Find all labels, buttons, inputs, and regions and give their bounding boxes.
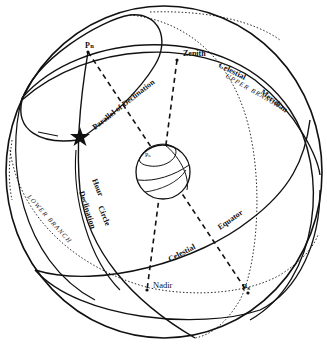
lower-branch-label: LOWER BRANCH: [26, 192, 74, 244]
north-pole-point: [86, 50, 89, 53]
upper-branch-label: UPPER BRANCH: [225, 72, 282, 109]
nadir-point: [145, 288, 148, 291]
earth-pole-label: Pₙ: [145, 152, 151, 158]
zenith-point: [175, 58, 178, 61]
hour-circle-label-2: Circle: [96, 204, 112, 227]
celestial-equator-label-2: Equator: [216, 208, 245, 232]
parallel-of-declination: [21, 15, 162, 141]
dotted-left: [9, 140, 12, 200]
parallel-of-declination-label: Parallel of Declination: [91, 77, 157, 131]
celestial-sphere-diagram: Pₙ Pₙ Zenith Nadir Pₛ Parallel of Declin…: [0, 0, 327, 345]
hour-circle-label-1: Hour: [90, 177, 105, 198]
dotted-top: [150, 12, 280, 40]
parallel-of-declination-dash: [38, 132, 58, 136]
nadir-label: Nadir: [153, 280, 173, 290]
zenith-label: Zenith: [183, 49, 206, 58]
south-pole-label: Pₛ: [242, 283, 250, 292]
star-icon: [70, 127, 90, 146]
north-pole-label: Pₙ: [85, 41, 94, 50]
